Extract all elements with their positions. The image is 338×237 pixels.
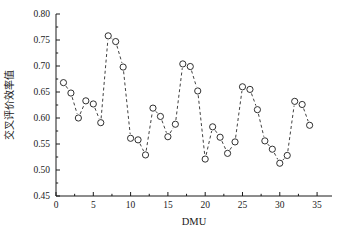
data-point-marker — [247, 86, 253, 92]
x-tick-label: 35 — [312, 200, 322, 210]
data-point-marker — [142, 152, 148, 158]
data-point-marker — [105, 33, 111, 39]
data-point-marker — [180, 61, 186, 67]
data-point-marker — [269, 146, 275, 152]
data-point-marker — [75, 115, 81, 121]
data-point-marker — [187, 63, 193, 69]
data-point-marker — [150, 105, 156, 111]
y-tick-label: 0.50 — [33, 165, 50, 175]
chart-plot-svg: 0.450.500.550.600.650.700.750.80 0510152… — [0, 0, 338, 237]
data-point-marker — [90, 101, 96, 107]
data-point-marker — [120, 64, 126, 70]
data-point-marker — [232, 139, 238, 145]
x-tick-label: 30 — [275, 200, 285, 210]
y-tick-label: 0.60 — [33, 113, 50, 123]
y-axis-title: 交叉评价效率值 — [3, 70, 15, 140]
y-tick-label: 0.55 — [33, 139, 50, 149]
x-axis: 05101520253035 — [54, 192, 332, 210]
x-tick-label: 10 — [126, 200, 136, 210]
y-tick-label: 0.70 — [33, 61, 50, 71]
x-tick-label: 25 — [238, 200, 248, 210]
x-tick-label: 0 — [54, 200, 59, 210]
y-axis-tick-labels: 0.450.500.550.600.650.700.750.80 — [33, 9, 50, 201]
data-point-marker — [165, 134, 171, 140]
data-point-marker — [262, 138, 268, 144]
data-point-marker — [239, 84, 245, 90]
y-tick-label: 0.65 — [33, 87, 50, 97]
x-tick-label: 5 — [91, 200, 96, 210]
data-point-marker — [83, 98, 89, 104]
data-point-marker — [127, 135, 133, 141]
series-markers — [60, 33, 312, 167]
data-point-marker — [254, 107, 260, 113]
chart-container: 0.450.500.550.600.650.700.750.80 0510152… — [0, 0, 338, 237]
x-axis-title: DMU — [182, 216, 207, 227]
x-tick-label: 15 — [163, 200, 173, 210]
data-point-marker — [292, 98, 298, 104]
data-series — [60, 33, 312, 167]
data-point-marker — [217, 134, 223, 140]
y-axis-ticks — [56, 14, 60, 196]
data-point-marker — [113, 38, 119, 44]
data-point-marker — [307, 122, 313, 128]
data-point-marker — [299, 101, 305, 107]
series-line-path — [66, 38, 308, 160]
y-tick-label: 0.45 — [33, 191, 50, 201]
data-point-marker — [135, 137, 141, 143]
x-axis-tick-labels: 05101520253035 — [54, 200, 322, 210]
data-point-marker — [195, 88, 201, 94]
data-point-marker — [202, 156, 208, 162]
data-point-marker — [277, 160, 283, 166]
data-point-marker — [68, 90, 74, 96]
y-tick-label: 0.75 — [33, 35, 50, 45]
y-axis: 0.450.500.550.600.650.700.750.80 — [33, 9, 60, 201]
data-point-marker — [284, 152, 290, 158]
x-tick-label: 20 — [200, 200, 210, 210]
data-point-marker — [210, 124, 216, 130]
data-point-marker — [224, 150, 230, 156]
data-point-marker — [172, 121, 178, 127]
data-point-marker — [157, 113, 163, 119]
y-tick-label: 0.80 — [33, 9, 50, 19]
data-point-marker — [60, 80, 66, 86]
x-axis-ticks — [56, 192, 317, 196]
data-point-marker — [98, 120, 104, 126]
